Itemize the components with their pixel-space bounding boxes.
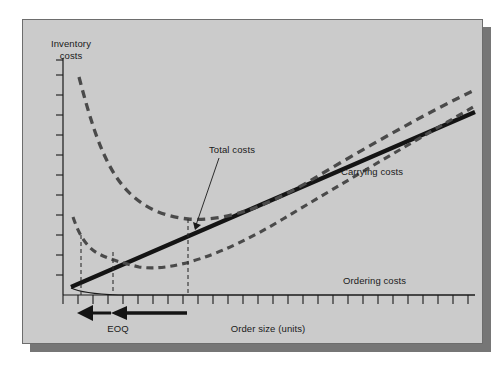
y-axis-ticks bbox=[56, 60, 63, 275]
annotation-eoq: EOQ bbox=[89, 323, 147, 335]
series-carrying-costs bbox=[71, 112, 475, 287]
x-axis-label: Order size (units) bbox=[193, 323, 343, 335]
figure-root: Inventory costs Total costs Carrying cos… bbox=[0, 0, 503, 376]
x-axis-ticks bbox=[63, 295, 468, 304]
y-axis-label: Inventory costs bbox=[35, 38, 107, 61]
y-axis-label-line1: Inventory bbox=[35, 38, 107, 50]
series-total-costs-lower bbox=[73, 106, 475, 268]
figure-frame: Inventory costs Total costs Carrying cos… bbox=[22, 19, 483, 344]
eoq-cost-chart bbox=[23, 20, 484, 345]
annotation-carrying-costs: Carrying costs bbox=[341, 166, 403, 178]
annotation-ordering-costs: Ordering costs bbox=[343, 275, 406, 287]
annotation-total-costs: Total costs bbox=[209, 144, 255, 156]
drop-lines bbox=[81, 219, 188, 295]
axis-group bbox=[63, 58, 475, 295]
series-total-costs-upper bbox=[79, 77, 475, 219]
eoq-arrow-inner-head bbox=[77, 305, 93, 321]
eoq-arrow-outer-head bbox=[111, 306, 127, 320]
eoq-arrow-group bbox=[77, 305, 187, 321]
y-axis-label-line2: costs bbox=[35, 50, 107, 62]
